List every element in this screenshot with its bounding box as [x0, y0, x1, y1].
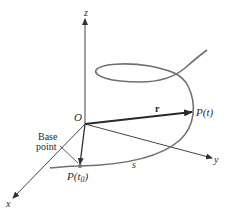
space-curve-diagram: z x y O r P(t) P(t0) s Base point — [0, 0, 231, 212]
base-point-marker — [78, 164, 82, 168]
x-axis-label: x — [5, 198, 11, 209]
point-p-t-label: P(t) — [195, 106, 213, 119]
vector-r-label: r — [155, 103, 160, 114]
y-axis-label: y — [213, 154, 219, 165]
y-axis — [85, 124, 212, 158]
arc-length-label: s — [132, 159, 136, 170]
point-p-t0-label: P(t0) — [66, 170, 88, 184]
vector-to-base-point — [80, 124, 85, 164]
base-point-label-line2: point — [36, 141, 57, 152]
base-point-leader — [60, 146, 78, 163]
origin-label: O — [74, 111, 82, 123]
z-axis-label: z — [83, 7, 88, 18]
position-vector-r — [85, 112, 192, 124]
